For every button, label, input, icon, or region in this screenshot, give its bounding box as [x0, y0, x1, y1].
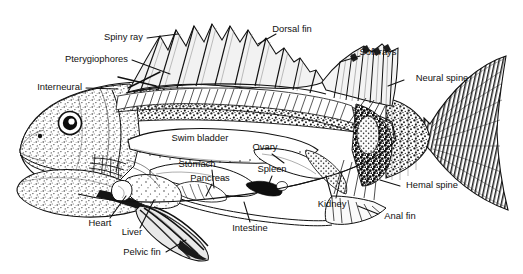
label-spleen: Spleen [257, 163, 286, 174]
label-pterygiophores: Pterygiophores [65, 53, 128, 64]
label-anal-fin: Anal fin [384, 210, 415, 221]
label-swim-bladder: Swim bladder [172, 132, 229, 143]
label-heart: Heart [89, 217, 112, 228]
fish-anatomy-diagram: Spiny ray Pterygiophores Interneural Dor… [0, 0, 523, 274]
label-pelvic-fin: Pelvic fin [123, 246, 161, 257]
label-intestine: Intestine [232, 222, 267, 233]
label-hemal-spine: Hemal spine [406, 179, 458, 190]
label-dorsal-fin: Dorsal fin [272, 23, 312, 34]
eye [59, 112, 82, 135]
label-neural-spine: Neural spine [416, 72, 469, 83]
label-spiny-ray: Spiny ray [104, 31, 143, 42]
label-stomach: Stomach [179, 158, 216, 169]
label-pancreas: Pancreas [190, 172, 230, 183]
label-ovary: Ovary [252, 141, 277, 152]
heart-organ [112, 180, 133, 201]
fish-anatomy-figure: Spiny ray Pterygiophores Interneural Dor… [0, 0, 523, 274]
label-liver: Liver [122, 226, 142, 237]
label-interneural: Interneural [37, 81, 82, 92]
label-soft-rays: Soft rays [360, 46, 397, 57]
label-kidney: Kidney [318, 198, 347, 209]
